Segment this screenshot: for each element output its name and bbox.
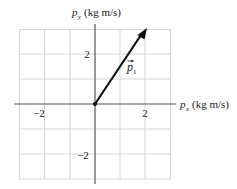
vector-label: p 1	[126, 60, 137, 76]
svg-text:(kg m/s): (kg m/s)	[84, 6, 121, 19]
svg-text:p: p	[179, 98, 186, 110]
svg-text:x: x	[185, 105, 190, 113]
origin-point	[93, 102, 97, 106]
vector-subscript: 1	[133, 68, 137, 76]
momentum-vector-diagram: p 1 −2 2 2 −2 p y (kg m/s) p x (kg m/s)	[0, 0, 237, 189]
svg-text:y: y	[77, 13, 82, 21]
svg-text:(kg m/s): (kg m/s)	[192, 98, 229, 111]
y-axis-title: p y (kg m/s)	[71, 6, 121, 21]
svg-text:p: p	[71, 6, 78, 18]
x-tick-neg2: −2	[33, 107, 45, 119]
x-tick-2: 2	[142, 107, 148, 119]
x-axis-title: p x (kg m/s)	[179, 98, 229, 113]
y-tick-2: 2	[84, 48, 90, 60]
y-tick-neg2: −2	[77, 149, 89, 161]
